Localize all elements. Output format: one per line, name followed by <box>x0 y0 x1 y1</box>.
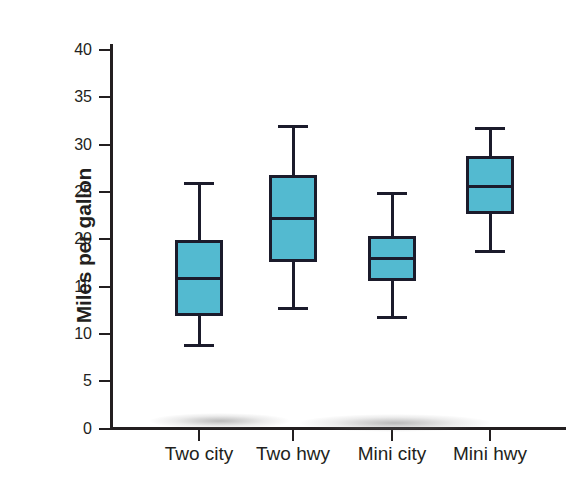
median-line <box>368 257 416 260</box>
x-tick-mark <box>292 430 294 441</box>
upper-whisker-cap <box>278 125 308 128</box>
lower-whisker-line <box>198 316 201 345</box>
x-tick-mark <box>198 430 200 441</box>
x-tick-mark <box>391 430 393 441</box>
x-tick-mark <box>489 430 491 441</box>
boxplot-chart: 0510152025303540 Two cityTwo hwyMini cit… <box>0 0 576 491</box>
lower-whisker-cap <box>475 250 505 253</box>
lower-whisker-cap <box>184 344 214 347</box>
median-line <box>175 277 223 280</box>
x-tick-label-mini-hwy: Mini hwy <box>430 444 550 465</box>
upper-whisker-line <box>489 129 492 156</box>
median-line <box>269 217 317 220</box>
lower-whisker-line <box>489 214 492 252</box>
x-axis-line <box>110 427 566 430</box>
upper-whisker-cap <box>184 182 214 185</box>
y-axis-title: Miles per gallon <box>56 0 112 491</box>
median-line <box>466 185 514 188</box>
upper-whisker-cap <box>377 192 407 195</box>
upper-whisker-line <box>391 194 394 237</box>
lower-whisker-cap <box>377 316 407 319</box>
lower-whisker-line <box>292 262 295 308</box>
upper-whisker-line <box>292 127 295 175</box>
upper-whisker-line <box>198 183 201 240</box>
lower-whisker-line <box>391 281 394 318</box>
upper-whisker-cap <box>475 127 505 130</box>
lower-whisker-cap <box>278 307 308 310</box>
